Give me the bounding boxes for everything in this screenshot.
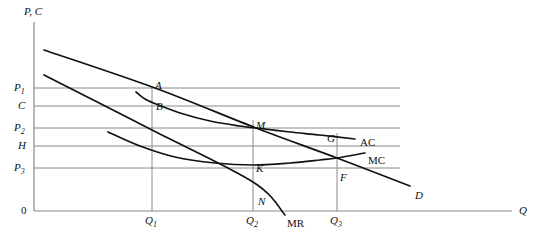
curve-label-MR: MR [287, 218, 304, 229]
point-label-A: A [155, 80, 162, 91]
diagram-canvas [0, 0, 535, 241]
point-label-M: M [256, 120, 265, 131]
point-label-K: K [256, 163, 263, 174]
y-tick-P2: P2 [14, 122, 25, 136]
economics-diagram: P, C Q 0 P1CP2HP3 Q1Q2Q3 ACMCMRD ABMKNGF [0, 0, 535, 241]
curve-label-MC: MC [368, 155, 385, 166]
y-tick-C: C [18, 100, 25, 111]
y-tick-H: H [18, 140, 26, 151]
point-label-N: N [258, 196, 265, 207]
y-tick-P3: P3 [14, 162, 25, 176]
curve-label-D: D [415, 190, 423, 201]
curve-label-AC: AC [360, 137, 375, 148]
x-axis-label: Q [519, 205, 527, 216]
x-tick-Q1: Q1 [145, 215, 157, 229]
curve-AC [136, 92, 355, 139]
x-tick-Q3: Q3 [330, 215, 342, 229]
curve-D [44, 50, 410, 186]
point-label-B: B [156, 101, 163, 112]
curve-group [44, 50, 410, 215]
y-axis-label: P, C [24, 6, 42, 17]
point-label-F: F [340, 172, 347, 183]
x-tick-Q2: Q2 [246, 215, 258, 229]
origin-label: 0 [21, 205, 27, 216]
point-label-G: G [327, 133, 335, 144]
y-tick-P1: P1 [14, 82, 25, 96]
axes-group [34, 22, 512, 211]
curve-MR [44, 75, 285, 215]
